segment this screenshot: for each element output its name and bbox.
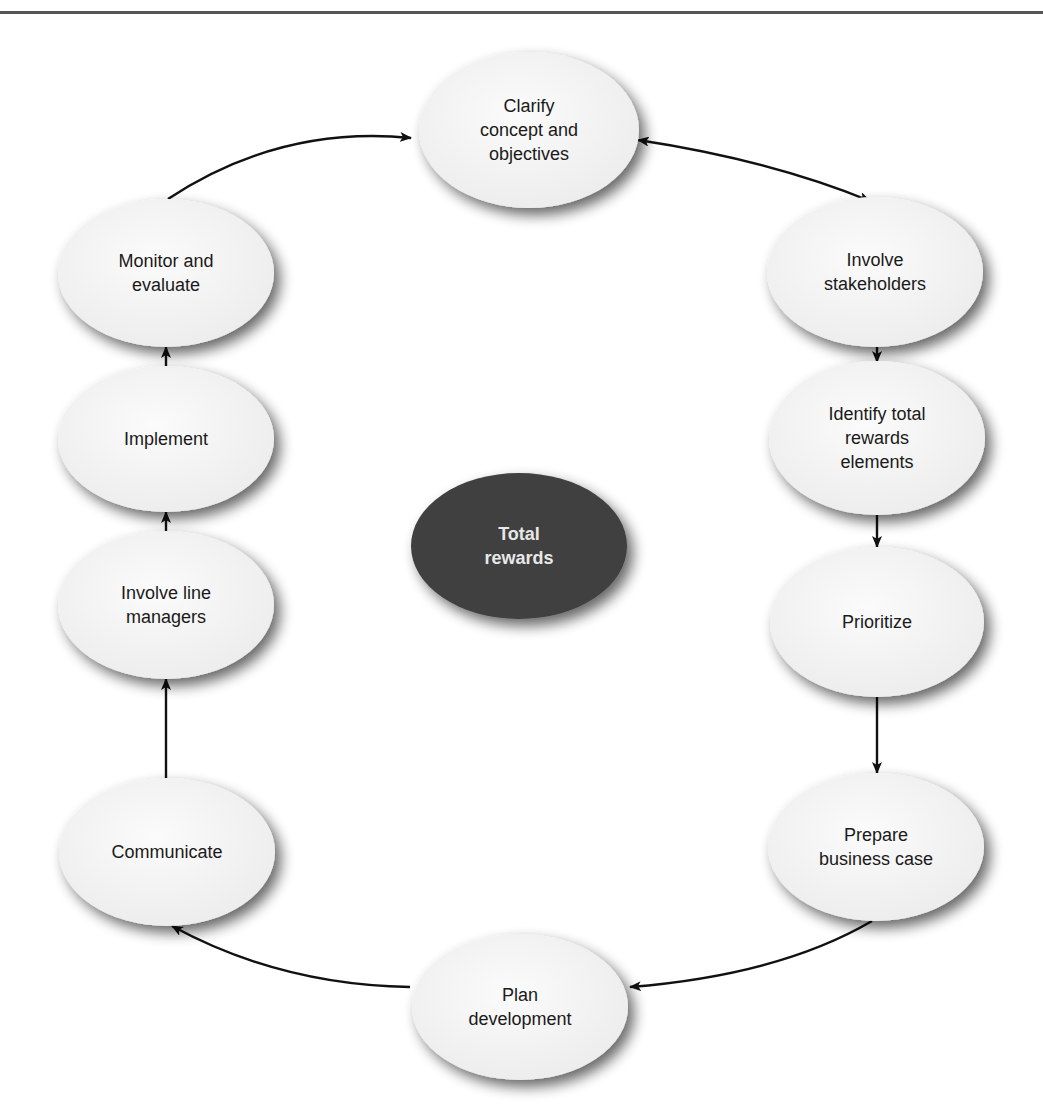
- node-label-line: Communicate: [111, 842, 222, 862]
- node-label-line: rewards: [484, 548, 553, 568]
- arrow-plan-development-to-communicate: [172, 926, 410, 987]
- center-ellipse: [411, 473, 627, 619]
- node-label-line: Prepare: [844, 825, 908, 845]
- node-label-line: Involve: [846, 250, 903, 270]
- node-label-line: Implement: [124, 429, 208, 449]
- node-label-line: objectives: [489, 144, 569, 164]
- node-ellipse: [58, 199, 274, 347]
- node-label-line: concept and: [480, 120, 578, 140]
- total-rewards-cycle-diagram: Clarifyconcept andobjectivesInvolvestake…: [0, 0, 1043, 1120]
- node-label-line: managers: [126, 607, 206, 627]
- node-monitor: Monitor andevaluate: [58, 199, 274, 347]
- node-label-line: evaluate: [132, 275, 200, 295]
- node-label-line: elements: [840, 452, 913, 472]
- node-communicate: Communicate: [59, 778, 275, 926]
- node-label-line: development: [468, 1009, 571, 1029]
- node-prioritize: Prioritize: [770, 547, 984, 697]
- node-ellipse: [412, 934, 628, 1080]
- node-involve-line-managers: Involve linemanagers: [58, 531, 274, 679]
- arrow-monitor-to-clarify: [168, 136, 411, 199]
- node-business-case: Preparebusiness case: [768, 773, 984, 921]
- node-ellipse: [767, 197, 983, 347]
- node-label-line: Identify total: [828, 404, 925, 424]
- node-plan-development: Plandevelopment: [412, 934, 628, 1080]
- arrow-business-case-to-plan-development: [630, 921, 872, 987]
- node-identify: Identify totalrewardselements: [769, 361, 985, 515]
- node-label-line: Involve line: [121, 583, 211, 603]
- arrow-clarify-to-involve-stakeholders: [638, 140, 870, 201]
- node-label-line: Total: [498, 524, 540, 544]
- node-label-line: Prioritize: [842, 612, 912, 632]
- node-label-line: Monitor and: [118, 251, 213, 271]
- node-ellipse: [768, 773, 984, 921]
- node-implement: Implement: [58, 366, 274, 512]
- node-label-line: Clarify: [503, 96, 554, 116]
- node-label-line: business case: [819, 849, 933, 869]
- node-label-line: rewards: [845, 428, 909, 448]
- node-involve-stakeholders: Involvestakeholders: [767, 197, 983, 347]
- node-label-line: stakeholders: [824, 274, 926, 294]
- node-label-line: Plan: [502, 985, 538, 1005]
- node-clarify: Clarifyconcept andobjectives: [419, 52, 639, 208]
- center-node: Totalrewards: [411, 473, 627, 619]
- node-ellipse: [58, 531, 274, 679]
